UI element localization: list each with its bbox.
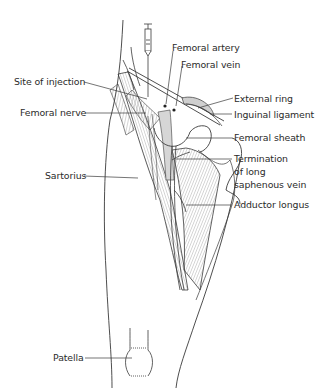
label-external-ring: External ring [234,93,293,104]
label-femoral-artery: Femoral artery [172,42,240,53]
label-femoral-nerve: Femoral nerve [20,107,86,118]
syringe-icon [144,24,152,97]
label-patella: Patella [53,352,84,363]
label-termination-line-3: saphenous vein [234,179,306,190]
label-femoral-sheath: Femoral sheath [234,132,305,143]
label-femoral-vein: Femoral vein [181,59,240,70]
label-site-of-injection: Site of injection [14,76,85,87]
patella-shape [126,328,153,376]
femoral-nerve-block-diagram: Femoral artery Femoral vein Site of inje… [0,0,324,388]
label-adductor-longus: Adductor longus [234,199,309,210]
label-termination-line-1: Termination [234,153,288,164]
label-termination-line-2: of long [234,166,266,177]
label-sartorius: Sartorius [45,170,86,181]
label-inguinal-ligament: Inguinal ligament [234,109,314,120]
thigh-anatomy-illustration [0,0,324,388]
sartorius-muscle [118,72,188,290]
